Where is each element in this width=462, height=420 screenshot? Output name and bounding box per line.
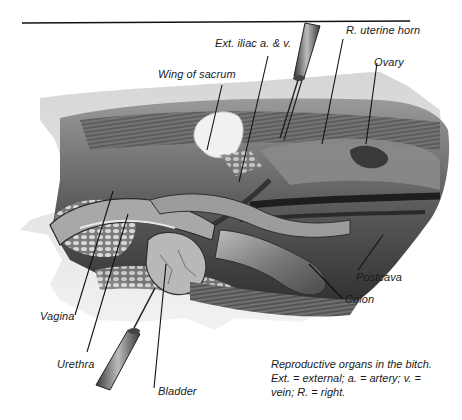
label-colon: Colon bbox=[345, 293, 374, 305]
label-bladder: Bladder bbox=[158, 385, 197, 397]
label-wing-of-sacrum: Wing of sacrum bbox=[158, 68, 236, 80]
label-r-uterine-horn: R. uterine horn bbox=[346, 24, 420, 36]
label-ovary: Ovary bbox=[374, 56, 404, 68]
label-ext-iliac: Ext. iliac a. & v. bbox=[215, 37, 291, 49]
caption-line-3: vein; R. = right. bbox=[271, 385, 461, 399]
figure-caption: Reproductive organs in the bitch. Ext. =… bbox=[271, 357, 461, 399]
top-rule bbox=[22, 21, 410, 23]
anatomical-figure: Ext. iliac a. & v. R. uterine horn Ovary… bbox=[0, 0, 462, 420]
caption-line-2: Ext. = external; a. = artery; v. = bbox=[271, 371, 461, 385]
label-postcava: Postcava bbox=[356, 271, 402, 283]
caption-line-1: Reproductive organs in the bitch. bbox=[271, 357, 461, 371]
label-vagina: Vagina bbox=[40, 310, 74, 322]
label-urethra: Urethra bbox=[57, 358, 94, 370]
